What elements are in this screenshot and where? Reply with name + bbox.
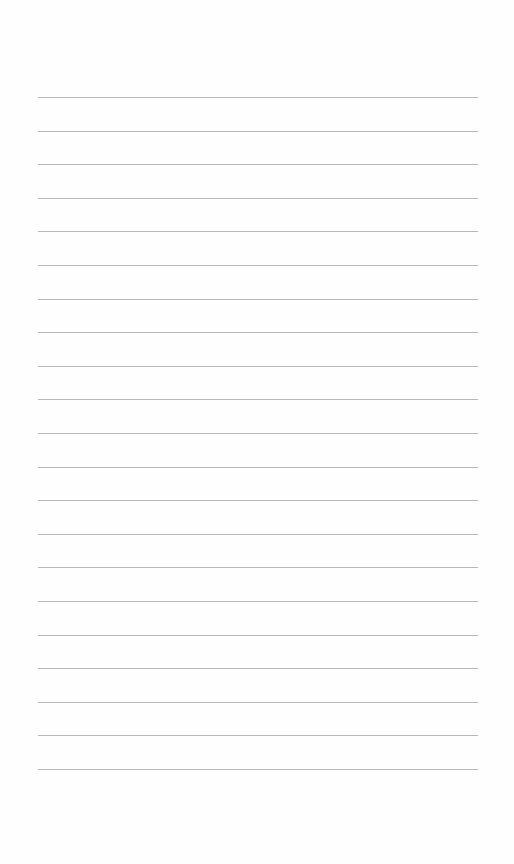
ruled-line xyxy=(38,467,478,468)
ruled-line xyxy=(38,399,478,400)
ruled-line xyxy=(38,131,478,132)
ruled-line xyxy=(38,299,478,300)
ruled-line xyxy=(38,231,478,232)
ruled-line xyxy=(38,601,478,602)
ruled-line xyxy=(38,534,478,535)
ruled-line xyxy=(38,635,478,636)
ruled-line xyxy=(38,198,478,199)
ruled-line xyxy=(38,567,478,568)
ruled-line xyxy=(38,702,478,703)
ruled-line xyxy=(38,735,478,736)
ruled-line xyxy=(38,164,478,165)
ruled-line xyxy=(38,500,478,501)
ruled-line xyxy=(38,265,478,266)
ruled-line xyxy=(38,366,478,367)
ruled-line xyxy=(38,668,478,669)
lined-paper-page xyxy=(0,0,514,864)
ruled-line xyxy=(38,332,478,333)
ruled-line xyxy=(38,433,478,434)
ruled-line xyxy=(38,97,478,98)
ruled-line xyxy=(38,769,478,770)
